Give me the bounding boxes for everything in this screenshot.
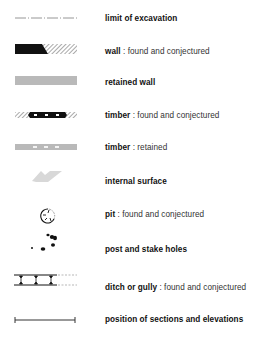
legend-row-internal-surface: internal surface [0,166,255,196]
legend-title: limit of excavation [105,14,177,23]
legend-label: timber : retained [105,143,167,152]
legend-label: wall : found and conjectured [105,47,210,56]
legend-title: timber [105,111,130,120]
pit-icon [14,199,78,229]
ditch-or-gully-icon [14,268,78,298]
post-and-stake-holes-icon [14,231,78,261]
internal-surface-icon [14,166,78,196]
legend-label: pit : found and conjectured [105,210,204,219]
legend-label: limit of excavation [105,14,177,23]
section-line-icon [14,305,78,335]
wall-icon [14,36,78,66]
limit-of-excavation-icon [14,3,78,33]
legend-label: position of sections and elevations [105,314,243,323]
legend-detail: : found and conjectured [130,111,219,120]
legend-title: post and stake holes [105,245,187,254]
legend-title: position of sections and elevations [105,314,243,323]
legend-label: post and stake holes [105,245,187,254]
legend-label: ditch or gully : found and conjectured [105,282,246,291]
legend-row-ditch-or-gully: ditch or gully : found and conjectured [0,268,255,298]
legend-row-timber-retained: timber : retained [0,132,255,162]
legend-title: pit [105,210,115,219]
legend-detail: : retained [130,143,167,152]
legend-detail: : found and conjectured [115,210,204,219]
legend-row-wall: wall : found and conjectured [0,36,255,66]
legend-title: timber [105,143,130,152]
legend-row-timber: timber : found and conjectured [0,100,255,130]
legend-title: retained wall [105,78,155,87]
legend-row-limit-of-excavation: limit of excavation [0,3,255,33]
legend-row-retained-wall: retained wall [0,67,255,97]
legend-detail: : found and conjectured [121,47,210,56]
legend-label: internal surface [105,177,167,186]
legend-title: ditch or gully [105,282,157,291]
timber-retained-icon [14,132,78,162]
legend-label: timber : found and conjectured [105,111,219,120]
legend-title: wall [105,47,121,56]
legend-row-pit: pit : found and conjectured [0,199,255,229]
legend-row-post-and-stake-holes: post and stake holes [0,231,255,261]
legend-detail: : found and conjectured [157,282,246,291]
legend-row-position-of-sections: position of sections and elevations [0,305,255,335]
retained-wall-icon [14,67,78,97]
timber-icon [14,100,78,130]
legend-title: internal surface [105,177,167,186]
legend-label: retained wall [105,78,155,87]
